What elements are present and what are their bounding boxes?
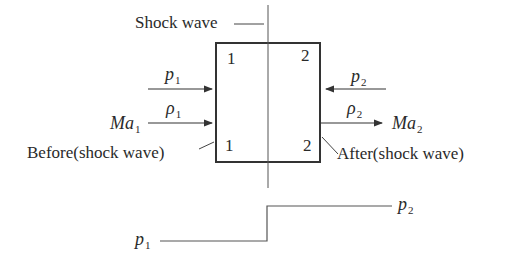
p1-label: p1: [165, 65, 181, 86]
rho2-label: ρ2: [347, 99, 362, 120]
region-1-bottom-number: 1: [225, 137, 234, 154]
region-1-top-number: 1: [227, 50, 236, 67]
profile-p1-label: p1: [135, 230, 151, 251]
rho1-label: ρ1: [166, 99, 181, 120]
region-2-bottom-number: 2: [303, 137, 312, 154]
pressure-step-profile: [160, 206, 392, 241]
region-2-top-number: 2: [301, 47, 310, 64]
after-leader: [322, 137, 338, 154]
before-shock-caption: Before(shock wave): [27, 144, 164, 161]
ma2-label: Ma2: [392, 114, 423, 135]
shock-wave-label: Shock wave: [135, 14, 218, 31]
p2-label: p2: [351, 67, 367, 88]
profile-p2-label: p2: [398, 195, 414, 216]
after-shock-caption: After(shock wave): [337, 145, 464, 162]
ma1-label: Ma1: [110, 114, 141, 135]
shock-diagram-graphics: [0, 0, 516, 266]
before-leader: [199, 142, 214, 149]
